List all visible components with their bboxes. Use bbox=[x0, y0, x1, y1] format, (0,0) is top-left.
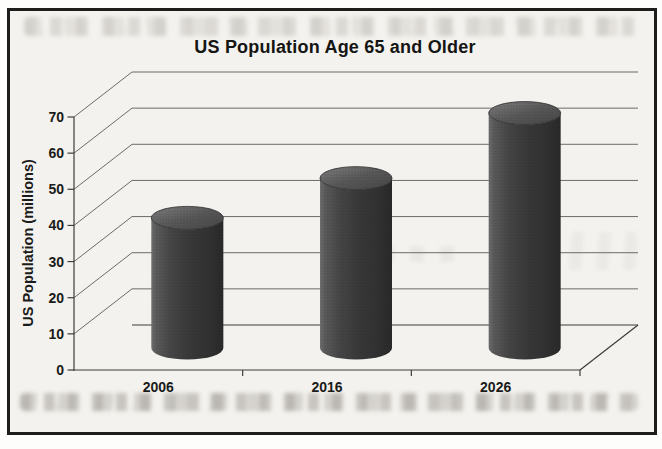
cylinder-top-texture bbox=[320, 167, 392, 190]
cylinder-body-texture bbox=[489, 113, 561, 359]
y-tick-label-30: 30 bbox=[48, 254, 64, 270]
x-category-label-2026: 2026 bbox=[480, 379, 511, 395]
x-category-label-2016: 2016 bbox=[311, 379, 342, 395]
cylinder-2006 bbox=[151, 206, 223, 359]
y-axis-title: US Population (millions) bbox=[20, 159, 36, 327]
y-tick-label-70: 70 bbox=[48, 109, 64, 125]
cylinder-2026 bbox=[489, 102, 561, 360]
population-3d-cylinder-chart: US Population (millions) 010203040506070… bbox=[0, 0, 662, 449]
cylinder-body-texture bbox=[320, 178, 392, 359]
cylinder-top-texture bbox=[151, 206, 223, 229]
y-tick-labels: 010203040506070 bbox=[48, 109, 64, 378]
y-tick-label-10: 10 bbox=[48, 326, 64, 342]
cylinder-top-texture bbox=[489, 102, 561, 125]
floor-right-edge bbox=[580, 325, 638, 370]
x-category-labels: 200620162026 bbox=[143, 379, 512, 395]
x-category-label-2006: 2006 bbox=[143, 379, 174, 395]
y-tick-label-40: 40 bbox=[48, 217, 64, 233]
y-tick-label-0: 0 bbox=[56, 362, 64, 378]
y-tick-label-20: 20 bbox=[48, 290, 64, 306]
cylinder-2016 bbox=[320, 167, 392, 360]
y-tick-label-60: 60 bbox=[48, 145, 64, 161]
chart-title: US Population Age 65 and Older bbox=[75, 38, 595, 57]
y-tick-label-50: 50 bbox=[48, 181, 64, 197]
cylinder-body-texture bbox=[151, 218, 223, 360]
